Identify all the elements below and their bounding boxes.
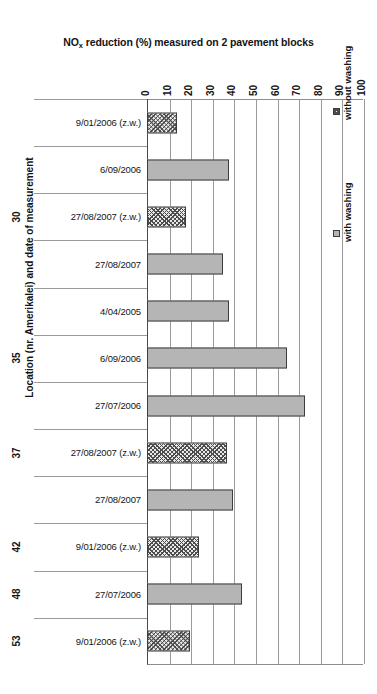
chart-title-subscript: x	[79, 41, 83, 50]
x-tick-label-100: 100	[357, 79, 367, 96]
chart-title: NOx reduction (%) measured on 2 pavement…	[0, 36, 377, 48]
location-group-label: 42	[12, 541, 22, 552]
x-tick-label-10: 10	[163, 85, 173, 96]
legend-label: with washing	[343, 182, 353, 242]
category-label: 6/09/2006	[100, 353, 147, 364]
category-separator	[34, 382, 147, 383]
bar-row	[147, 382, 363, 429]
bar-row	[147, 618, 363, 665]
location-group-label: 35	[12, 353, 22, 364]
category-separator	[34, 429, 147, 430]
category-separator	[34, 288, 147, 289]
category-label: 27/08/2007 (z.w.)	[71, 447, 147, 458]
x-tick-label-40: 40	[227, 85, 237, 96]
category-label: 27/08/2007 (z.w.)	[71, 211, 147, 222]
category-label: 9/01/2006 (z.w.)	[76, 117, 147, 128]
category-label: 6/09/2006	[100, 164, 147, 175]
category-row: 4/04/2005	[0, 288, 147, 335]
category-label: 27/08/2007	[95, 494, 147, 505]
x-tick-label-60: 60	[271, 85, 281, 96]
chart-legend: without washingwith washing	[330, 108, 358, 352]
category-row: 356/09/2006	[0, 335, 147, 382]
category-row: 27/07/2006	[0, 382, 147, 429]
category-axis: 9/01/2006 (z.w.)6/09/20063027/08/2007 (z…	[0, 99, 147, 665]
category-row: 27/08/2007	[0, 240, 147, 287]
bar-row	[147, 523, 363, 570]
x-tick-label-0: 0	[141, 90, 151, 96]
category-row: 429/01/2006 (z.w.)	[0, 523, 147, 570]
category-label: 9/01/2006 (z.w.)	[76, 541, 147, 552]
category-row: 9/01/2006 (z.w.)	[0, 99, 147, 146]
location-group-label: 37	[12, 447, 22, 458]
location-group-label: 53	[12, 636, 22, 647]
category-separator	[34, 618, 147, 619]
bar-without-washing[interactable]	[147, 206, 186, 227]
bar-without-washing[interactable]	[147, 442, 227, 463]
chart-title-rest: reduction (%) measured on 2 pavement blo…	[83, 36, 314, 48]
bar-with-washing[interactable]	[147, 489, 233, 510]
bar-without-washing[interactable]	[147, 631, 190, 652]
category-label: 9/01/2006 (z.w.)	[76, 636, 147, 647]
category-separator	[34, 335, 147, 336]
legend-swatch-icon	[333, 108, 340, 115]
bar-without-washing[interactable]	[147, 112, 177, 133]
bar-with-washing[interactable]	[147, 159, 229, 180]
category-row: 27/08/2007	[0, 476, 147, 523]
bar-with-washing[interactable]	[147, 584, 242, 605]
category-row: 3027/08/2007 (z.w.)	[0, 193, 147, 240]
category-label: 4/04/2005	[100, 306, 147, 317]
x-tick-label-50: 50	[249, 85, 259, 96]
category-separator	[34, 193, 147, 194]
bar-with-washing[interactable]	[147, 254, 223, 275]
legend-item-with-washing[interactable]: with washing	[330, 230, 358, 336]
location-group-label: 48	[12, 589, 22, 600]
category-separator	[34, 99, 147, 100]
x-tick-label-20: 20	[184, 85, 194, 96]
x-tick-label-80: 80	[314, 85, 324, 96]
gridline-100	[364, 99, 365, 664]
x-tick-label-30: 30	[206, 85, 216, 96]
category-label: 27/07/2006	[95, 589, 147, 600]
legend-label: without washing	[343, 46, 353, 120]
chart-title-main: NO	[63, 36, 79, 48]
category-row: 6/09/2006	[0, 146, 147, 193]
category-separator	[34, 523, 147, 524]
category-label: 27/07/2006	[95, 400, 147, 411]
bar-row	[147, 476, 363, 523]
bar-with-washing[interactable]	[147, 301, 229, 322]
category-separator	[34, 146, 147, 147]
bar-row	[147, 571, 363, 618]
bar-without-washing[interactable]	[147, 536, 199, 557]
category-separator	[34, 476, 147, 477]
category-row: 4827/07/2006	[0, 571, 147, 618]
x-axis-tick-labels: 0102030405060708090100	[147, 62, 363, 96]
bar-with-washing[interactable]	[147, 348, 287, 369]
category-separator	[34, 240, 147, 241]
bar-row	[147, 429, 363, 476]
x-tick-label-70: 70	[292, 85, 302, 96]
legend-swatch-icon	[333, 230, 340, 237]
category-separator	[34, 571, 147, 572]
category-label: 27/08/2007	[95, 259, 147, 270]
category-row: 539/01/2006 (z.w.)	[0, 618, 147, 665]
location-group-label: 30	[12, 211, 22, 222]
category-row: 3727/08/2007 (z.w.)	[0, 429, 147, 476]
bar-with-washing[interactable]	[147, 395, 305, 416]
